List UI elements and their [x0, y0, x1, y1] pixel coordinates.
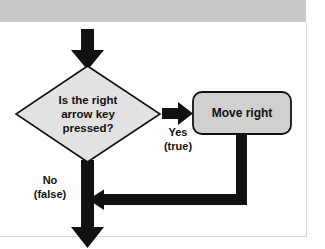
- no-branch-label: No (false): [34, 174, 67, 200]
- yes-branch-label: Yes (true): [164, 126, 192, 152]
- decision-node[interactable]: Is the right arrow key pressed?: [16, 66, 160, 162]
- flowchart-figure: Is the right arrow key pressed? Yes (tru…: [0, 22, 325, 249]
- yes-branch-arrow: [162, 102, 193, 125]
- no-label-line-2: (false): [34, 188, 67, 200]
- decision-label-line-3: pressed?: [62, 122, 113, 134]
- yes-label-line-1: Yes: [169, 126, 188, 138]
- top-gray-band: [0, 0, 325, 22]
- yes-label-line-2: (true): [164, 140, 192, 152]
- decision-label-line-1: Is the right: [59, 94, 118, 106]
- top-band-right-gap: [306, 0, 325, 22]
- flowchart-svg: Is the right arrow key pressed? Yes (tru…: [0, 22, 325, 249]
- entry-arrow: [71, 29, 104, 70]
- action-label: Move right: [212, 106, 273, 120]
- decision-label-line-2: arrow key: [61, 108, 115, 120]
- action-node[interactable]: Move right: [193, 92, 291, 134]
- flowchart-canvas: Is the right arrow key pressed? Yes (tru…: [0, 0, 325, 249]
- no-label-line-1: No: [43, 174, 58, 186]
